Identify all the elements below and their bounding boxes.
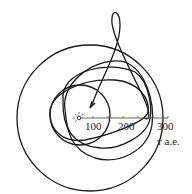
tick-label-300: 300 [157, 120, 174, 132]
tick-label-200: 200 [118, 120, 135, 132]
sun-icon [73, 112, 83, 122]
axis-unit-label: т a.e. [157, 135, 180, 147]
orbit-diagram: 100 200 300 т a.e. [0, 0, 192, 194]
tick-label-100: 100 [85, 120, 102, 132]
